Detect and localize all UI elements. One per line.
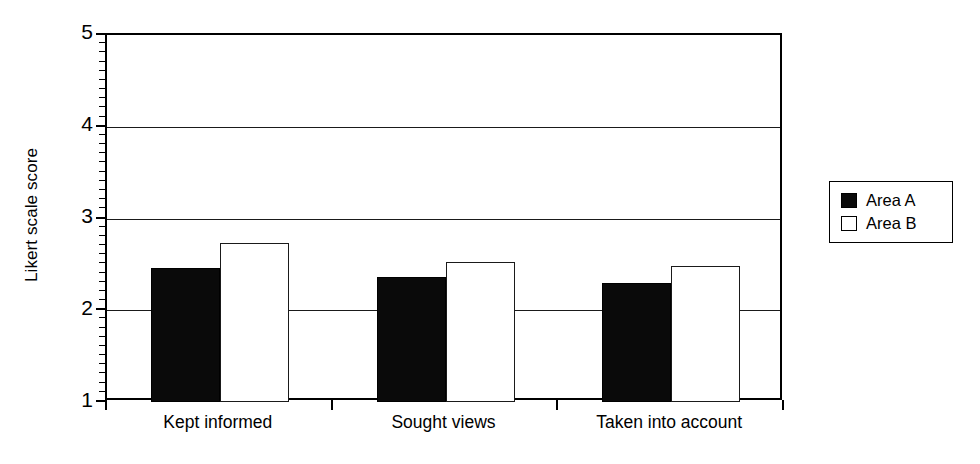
bar-area-a-kept-informed — [151, 268, 220, 402]
bar-area-b-taken-into-account — [671, 266, 740, 402]
bar-area-b-kept-informed — [220, 243, 289, 402]
bar-area-a-sought-views — [377, 277, 446, 402]
x-category-label-1: Sought views — [331, 412, 557, 433]
x-category-label-0: Kept informed — [105, 412, 331, 433]
plot-area — [105, 33, 782, 400]
x-tick-1 — [331, 400, 333, 410]
y-tick-label-1: 1 — [67, 389, 93, 410]
gridline-y-3 — [107, 219, 780, 220]
legend-item-area-a: Area A — [841, 189, 952, 212]
y-axis-title: Likert scale score — [22, 115, 42, 315]
y-tick-major-3.0 — [96, 217, 105, 219]
x-tick-3 — [782, 400, 784, 410]
legend-label-area-b: Area B — [866, 215, 916, 232]
y-tick-label-3: 3 — [67, 205, 93, 226]
y-tick-label-2: 2 — [67, 297, 93, 318]
bar-area-a-taken-into-account — [602, 283, 671, 402]
legend: Area A Area B — [829, 181, 953, 243]
x-tick-0 — [105, 400, 107, 410]
bar-area-b-sought-views — [446, 262, 515, 402]
y-tick-label-4: 4 — [67, 113, 93, 134]
x-tick-2 — [556, 400, 558, 410]
gridline-y-4 — [107, 127, 780, 128]
legend-swatch-icon-area-a — [841, 193, 857, 208]
legend-item-area-b: Area B — [841, 212, 952, 235]
x-category-label-2: Taken into account — [556, 412, 782, 433]
chart-figure: Likert scale score 5 4 3 2 1 Kept inform… — [0, 0, 980, 464]
y-tick-major-1.0 — [96, 400, 105, 402]
y-axis-tick-labels: 5 4 3 2 1 — [60, 0, 93, 464]
legend-swatch-icon-area-b — [841, 216, 857, 231]
legend-label-area-a: Area A — [866, 192, 916, 209]
y-tick-major-2.0 — [96, 308, 105, 310]
y-tick-major-5.0 — [96, 33, 105, 35]
y-tick-label-5: 5 — [67, 21, 93, 42]
y-tick-major-4.0 — [96, 125, 105, 127]
